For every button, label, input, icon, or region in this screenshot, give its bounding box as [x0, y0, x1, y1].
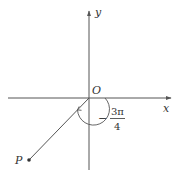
origin-label: O	[92, 84, 101, 97]
angle-denominator: 4	[114, 121, 120, 132]
x-axis-label: x	[163, 102, 170, 115]
coordinate-diagram: y x O P − 3π 4	[0, 0, 181, 179]
y-axis-label: y	[94, 6, 102, 19]
angle-numerator: 3π	[111, 106, 124, 117]
point-p-label: P	[14, 154, 23, 167]
point-p-dot	[27, 158, 31, 162]
terminal-ray	[29, 98, 89, 160]
angle-sign: −	[98, 112, 107, 125]
